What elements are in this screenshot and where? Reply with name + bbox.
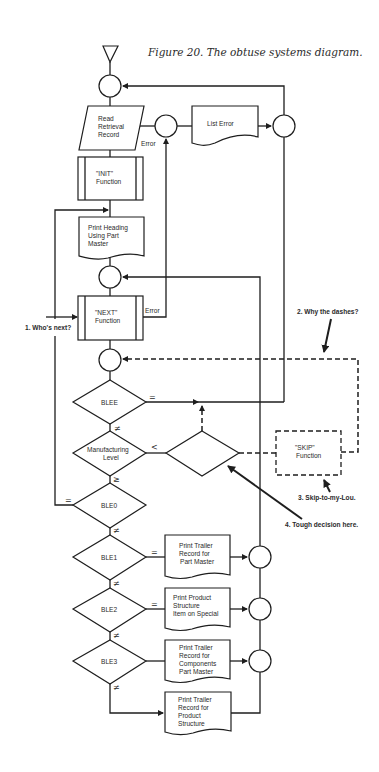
svg-text:=: = [151,600,158,609]
svg-text:"NEXT": "NEXT" [95,309,118,316]
connector-circle [249,546,271,568]
svg-text:BLE1: BLE1 [101,554,117,561]
node-list-error: List Error [192,106,258,145]
svg-text:BLE2: BLE2 [101,606,117,613]
node-decision-ble1: BLE1 [73,535,146,580]
svg-text:BLE0: BLE0 [101,502,117,509]
svg-text:Master: Master [88,240,109,247]
node-print-trailer-components: Print Trailer Record for Components Part… [165,640,230,683]
flowchart: Figure 20. The obtuse systems diagram. [0,0,379,772]
node-decision-ble0: BLE0 [73,483,146,528]
svg-text:Manufacturing: Manufacturing [87,446,129,454]
svg-text:BLEE: BLEE [101,399,118,406]
svg-text:Using Part: Using Part [88,232,119,240]
connector-circle [249,650,271,672]
svg-text:=: = [151,548,158,557]
svg-text:Print Trailer: Print Trailer [179,542,214,549]
connector-circle [249,598,271,620]
svg-text:Record for: Record for [179,652,211,659]
svg-text:Structure: Structure [178,720,205,727]
node-decision-ble2: BLE2 [73,588,146,632]
svg-text:Function: Function [296,452,322,459]
node-decision-blee: BLEE [73,380,146,424]
svg-text:≠: ≠ [113,683,120,692]
node-print-heading: Print Heading Using Part Master [79,217,144,259]
connector-circle [155,115,177,137]
node-decision-manufacturing-level: Manufacturing Level [73,431,146,476]
svg-text:Record for: Record for [179,550,211,557]
svg-text:Function: Function [95,317,121,324]
svg-text:=: = [149,393,156,402]
svg-text:3. Skip-to-my-Lou.: 3. Skip-to-my-Lou. [298,494,356,502]
svg-text:BLE3: BLE3 [101,658,117,665]
svg-text:List Error: List Error [207,120,235,127]
svg-text:Part Master: Part Master [179,668,214,675]
svg-text:Product: Product [178,712,201,719]
annotation-3: 3. Skip-to-my-Lou. [298,480,356,502]
node-print-trailer-product-structure: Print Trailer Record for Product Structu… [165,692,231,735]
node-next-function: "NEXT" Function [78,296,143,340]
node-init-function: "INIT" Function [78,157,143,200]
svg-text:2. Why the dashes?: 2. Why the dashes? [297,308,359,316]
connector-circle [99,266,121,288]
svg-text:≥: ≥ [113,475,120,484]
svg-text:=: = [65,496,72,505]
connector-circle [99,75,121,97]
node-read-retrieval-record: Read Retrieval Record [79,106,144,150]
svg-text:Print Trailer: Print Trailer [178,696,213,703]
svg-text:Item on Special: Item on Special [173,610,219,618]
svg-text:1. Who's next?: 1. Who's next? [25,324,71,331]
svg-text:Print Trailer: Print Trailer [179,644,214,651]
node-decision-unlabeled [166,431,239,476]
svg-text:Components: Components [179,660,217,668]
svg-text:Record for: Record for [178,704,210,711]
svg-text:≠: ≠ [113,631,120,640]
svg-text:Retrieval: Retrieval [98,123,125,130]
svg-text:Structure: Structure [173,602,200,609]
svg-text:≠: ≠ [113,526,120,535]
node-print-trailer-part-master: Print Trailer Record for Part Master [165,535,230,579]
svg-text:"SKIP": "SKIP" [295,444,315,451]
svg-text:Print Heading: Print Heading [88,224,128,232]
svg-text:4. Tough decision here.: 4. Tough decision here. [285,521,358,529]
svg-text:≠: ≠ [113,579,120,588]
svg-text:Function: Function [96,178,122,185]
node-print-product-structure-special: Print Product Structure Item on Special [165,588,230,631]
svg-text:≠: ≠ [114,424,121,433]
svg-text:"INIT": "INIT" [96,170,114,177]
figure-caption: Figure 20. The obtuse systems diagram. [147,46,362,58]
svg-text:Record: Record [98,131,120,138]
node-skip-function: "SKIP" Function [276,431,341,475]
svg-text:<: < [151,443,158,452]
svg-text:Print Product: Print Product [173,594,211,601]
start-terminal-icon [103,46,118,62]
svg-text:Read: Read [98,115,114,122]
edge-label-next-error: Error [145,307,160,314]
node-decision-ble3: BLE3 [73,640,146,684]
connector-circle [273,115,295,137]
annotation-1: 1. Who's next? [25,324,71,331]
svg-text:Level: Level [103,454,119,461]
annotation-2: 2. Why the dashes? [297,308,359,352]
connector-circle [99,349,121,371]
edge-label-read-error: Error [141,140,156,147]
svg-text:Part Master: Part Master [180,558,215,565]
